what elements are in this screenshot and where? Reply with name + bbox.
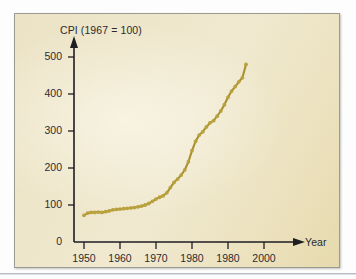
data-point [241, 76, 245, 80]
data-point [115, 208, 119, 212]
data-point [230, 89, 234, 93]
bottom-divider-rule-shadow [0, 274, 356, 275]
data-point [169, 186, 173, 190]
data-point [237, 80, 241, 84]
data-point [223, 103, 227, 107]
data-point [215, 114, 219, 118]
x-tick-label: 1970 [137, 252, 175, 264]
x-axis [74, 238, 305, 246]
y-tick-label: 500 [28, 50, 62, 62]
y-tick-label: 100 [28, 198, 62, 210]
x-tick-label: 2000 [245, 252, 283, 264]
x-tick-label: 1980 [209, 252, 247, 264]
data-point [172, 181, 176, 185]
data-point [100, 211, 104, 215]
data-point [93, 211, 97, 215]
data-point [176, 177, 180, 181]
x-axis-ticks [84, 242, 264, 249]
data-point [233, 85, 237, 89]
data-point [147, 202, 151, 206]
y-tick-label: 300 [28, 124, 62, 136]
y-axis [70, 36, 78, 242]
data-point [136, 205, 140, 209]
data-point [86, 211, 90, 215]
data-point [111, 208, 115, 212]
data-point [226, 95, 230, 99]
data-point [122, 207, 126, 211]
data-point [219, 109, 223, 113]
x-tick-label: 1950 [65, 252, 103, 264]
data-point [154, 197, 158, 201]
data-point [118, 207, 122, 211]
data-point [140, 204, 144, 208]
data-point [190, 149, 194, 153]
data-point [82, 213, 86, 217]
data-point [89, 211, 93, 215]
data-point [183, 168, 187, 172]
data-point [104, 210, 108, 214]
data-point [158, 195, 162, 199]
data-point [151, 199, 155, 203]
data-point [187, 160, 191, 164]
data-point [97, 210, 101, 214]
x-tick-label: 1960 [101, 252, 139, 264]
data-point [179, 173, 183, 177]
data-point [125, 206, 129, 210]
y-axis-ticks [68, 57, 74, 205]
data-point [107, 209, 111, 213]
y-tick-label: 200 [28, 161, 62, 173]
chart-plot-area [15, 14, 340, 268]
data-point [143, 203, 147, 207]
y-axis-title: CPI (1967 = 100) [60, 24, 142, 36]
data-point [165, 191, 169, 195]
data-point [208, 121, 212, 125]
chart-panel: CPI (1967 = 100) Year 0100200300400500 1… [14, 13, 340, 268]
data-point [205, 125, 209, 129]
figure-root: CPI (1967 = 100) Year 0100200300400500 1… [0, 0, 356, 279]
data-point [197, 133, 201, 137]
data-point [129, 206, 133, 210]
x-axis-title: Year [305, 236, 327, 248]
data-point [201, 130, 205, 134]
x-tick-label: 1980 [173, 252, 211, 264]
data-point [194, 139, 198, 143]
data-point [133, 206, 137, 210]
data-point [244, 63, 248, 67]
y-tick-label: 0 [28, 235, 62, 247]
data-point [161, 194, 165, 198]
data-point [212, 119, 216, 123]
y-tick-label: 400 [28, 87, 62, 99]
